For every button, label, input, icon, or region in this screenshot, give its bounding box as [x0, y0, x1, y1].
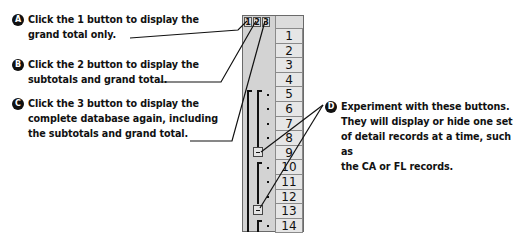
leader-line-d2 — [260, 105, 323, 208]
leader-line-c — [190, 21, 265, 141]
leader-lines — [0, 0, 520, 241]
leader-line-d1 — [261, 105, 323, 152]
leader-line-b — [160, 21, 256, 82]
leader-line-a — [130, 21, 247, 38]
